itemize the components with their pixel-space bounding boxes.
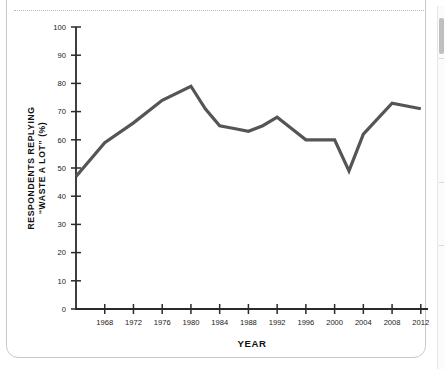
x-tick-label: 1976 [154,318,171,327]
x-axis-ticks: 1968197219761980198419881992199620002004… [96,304,429,327]
x-tick-label: 2004 [355,318,372,327]
chart-axes [76,27,428,309]
x-axis-title: YEAR [237,338,266,349]
x-tick-label: 1996 [297,318,314,327]
x-tick-label: 2008 [384,318,401,327]
x-tick-label: 1968 [96,318,113,327]
x-tick-label: 2012 [412,318,429,327]
y-tick-label: 90 [58,51,66,60]
page-root: 0102030405060708090100 19681972197619801… [0,0,445,369]
x-tick-label: 1980 [182,318,199,327]
data-series-line [76,86,421,176]
y-tick-label: 30 [58,220,66,229]
y-tick-label: 60 [58,136,66,145]
y-tick-label: 100 [53,23,66,32]
y-tick-label: 10 [58,277,66,286]
y-axis-title: RESPONDENTS REPLYING “WASTE A LOT” (%) [26,107,47,230]
y-tick-label: 50 [58,164,66,173]
line-chart: 0102030405060708090100 19681972197619801… [0,0,445,369]
x-tick-label: 1992 [269,318,286,327]
y-tick-label: 80 [58,79,66,88]
y-tick-label: 40 [58,192,66,201]
y-axis-title-line1: RESPONDENTS REPLYING [26,107,36,230]
x-tick-label: 1988 [240,318,257,327]
y-tick-label: 20 [58,248,66,257]
y-axis-title-line2: “WASTE A LOT” (%) [37,122,47,215]
chart-svg: 0102030405060708090100 19681972197619801… [0,0,445,369]
x-tick-label: 1984 [211,318,228,327]
y-tick-label: 70 [58,107,66,116]
y-tick-label: 0 [62,305,66,314]
x-tick-label: 2000 [326,318,343,327]
x-tick-label: 1972 [125,318,142,327]
